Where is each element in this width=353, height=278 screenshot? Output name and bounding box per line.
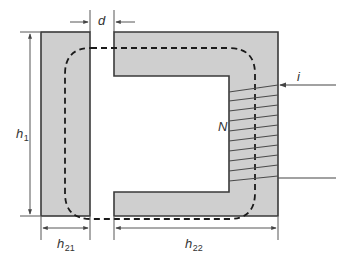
width-label-h21: h21 [57,237,75,253]
magnetic-circuit-diagram [0,0,353,278]
current-label-i: i [297,70,300,83]
dimension-h1 [20,32,40,216]
height-label-h1: h1 [16,126,29,144]
width-label-h22: h22 [185,237,203,253]
c-core [114,32,278,216]
gap-label-d: d [98,14,105,27]
turns-label-n: N [218,120,227,133]
